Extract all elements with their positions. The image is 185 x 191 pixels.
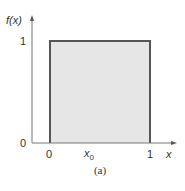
y-axis-label: f(x)	[6, 14, 22, 26]
x-axis-label: x	[165, 148, 172, 160]
x-tick-1: 1	[147, 148, 153, 160]
x0-subscript: 0	[90, 153, 95, 162]
x0-label: x0	[83, 147, 95, 162]
y-axis-arrow-icon	[30, 15, 34, 21]
uniform-density-chart: f(x) 1 0 0 1 x x0 (a)	[0, 0, 185, 191]
y-tick-1: 1	[20, 35, 26, 47]
x-axis-arrow-icon	[171, 141, 177, 145]
x-tick-0: 0	[46, 148, 52, 160]
density-fill-area	[50, 41, 150, 143]
figure-caption: (a)	[94, 164, 107, 177]
y-tick-0: 0	[20, 137, 26, 149]
